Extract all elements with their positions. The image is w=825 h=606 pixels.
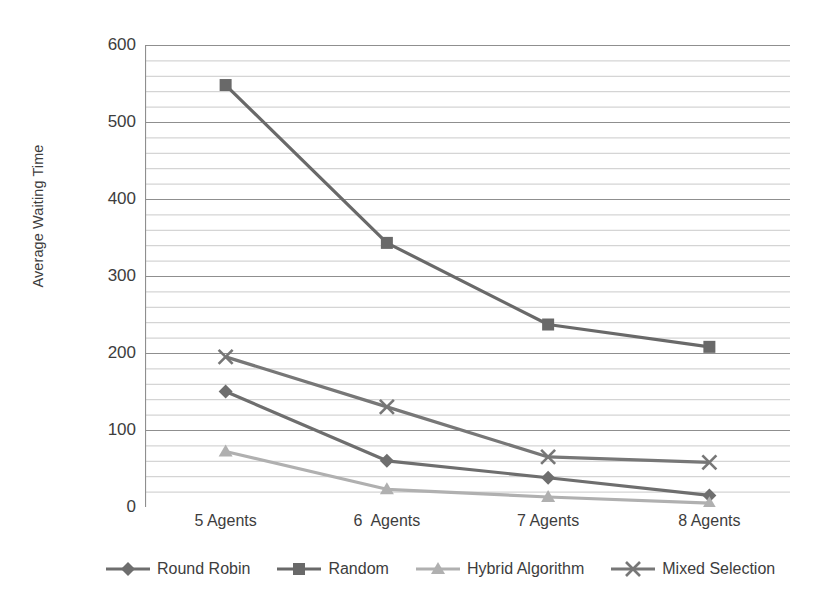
series-line bbox=[226, 357, 710, 462]
chart-legend: Round RobinRandomHybrid AlgorithmMixed S… bbox=[105, 552, 805, 586]
data-point-marker bbox=[703, 341, 715, 353]
legend-item-label: Hybrid Algorithm bbox=[467, 561, 584, 577]
y-axis-tick-label: 100 bbox=[66, 421, 136, 438]
y-axis-tick-label: 400 bbox=[66, 190, 136, 207]
data-point-marker bbox=[380, 454, 394, 468]
y-axis-tick-label: 600 bbox=[66, 36, 136, 53]
data-point-marker bbox=[381, 237, 393, 249]
y-axis-tick-label: 500 bbox=[66, 113, 136, 130]
plot-svg bbox=[145, 45, 790, 507]
data-point-marker bbox=[220, 79, 232, 91]
series-round-robin bbox=[219, 385, 717, 503]
data-point-marker bbox=[121, 562, 135, 576]
cross-marker-icon bbox=[610, 560, 656, 578]
x-axis-tick-label: 8 Agents bbox=[629, 512, 789, 530]
data-point-marker bbox=[541, 471, 555, 485]
x-axis-tick-label: 7 Agents bbox=[468, 512, 628, 530]
legend-item-hybrid-algorithm[interactable]: Hybrid Algorithm bbox=[415, 560, 584, 578]
x-axis-tick-labels: 5 Agents6 Agents7 Agents8 Agents bbox=[145, 512, 790, 540]
y-axis-tick-label: 0 bbox=[66, 498, 136, 515]
legend-item-label: Random bbox=[328, 561, 388, 577]
y-axis-tick-labels: 6005004003002001000 bbox=[58, 45, 136, 507]
legend-item-random[interactable]: Random bbox=[276, 560, 388, 578]
legend-item-label: Mixed Selection bbox=[662, 561, 775, 577]
series-line bbox=[226, 392, 710, 496]
y-axis-title: Average Waiting Time bbox=[30, 106, 46, 326]
legend-item-round-robin[interactable]: Round Robin bbox=[105, 560, 250, 578]
legend-item-mixed-selection[interactable]: Mixed Selection bbox=[610, 560, 775, 578]
data-point-marker bbox=[219, 445, 233, 457]
y-axis-tick-label: 200 bbox=[66, 344, 136, 361]
x-axis-tick-label: 5 Agents bbox=[146, 512, 306, 530]
chart-container: Average Waiting Time 6005004003002001000… bbox=[0, 0, 825, 606]
triangle-marker-icon bbox=[415, 560, 461, 578]
diamond-marker-icon bbox=[105, 560, 151, 578]
data-point-marker bbox=[542, 319, 554, 331]
data-point-marker bbox=[293, 563, 305, 575]
series-mixed-selection bbox=[219, 350, 717, 469]
legend-item-label: Round Robin bbox=[157, 561, 250, 577]
series-hybrid-algorithm bbox=[219, 445, 717, 507]
series-random bbox=[220, 79, 716, 353]
y-axis-tick-label: 300 bbox=[66, 267, 136, 284]
x-axis-tick-label: 6 Agents bbox=[307, 512, 467, 530]
plot-area bbox=[145, 45, 790, 507]
data-point-marker bbox=[219, 385, 233, 399]
square-marker-icon bbox=[276, 560, 322, 578]
